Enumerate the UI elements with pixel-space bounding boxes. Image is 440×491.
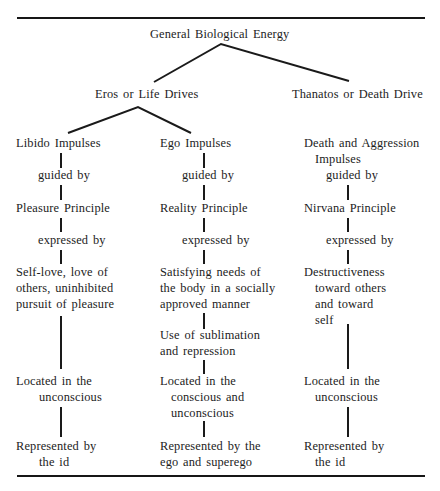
death-impulses-line-2: Impulses	[315, 151, 361, 167]
ego-impulses: Ego Impulses	[160, 135, 231, 151]
edge-root-branches	[154, 44, 349, 82]
ego-expression-line-3: approved manner	[160, 296, 250, 312]
libido-located-line-2: unconscious	[39, 389, 102, 405]
death-connector-2	[347, 218, 349, 232]
ego-mechanism-line-1: Use of sublimation	[160, 327, 260, 343]
libido-represented-line-1: Represented by	[16, 438, 96, 454]
death-expressed-by: expressed by	[326, 232, 394, 248]
ego-connector-4	[203, 250, 205, 264]
ego-guided-by: guided by	[182, 167, 234, 183]
libido-expression-line-3: pursuit of pleasure	[16, 296, 114, 312]
ego-represented-line-1: Represented by the	[160, 438, 261, 454]
libido-located-line-1: Located in the	[16, 373, 92, 389]
ego-mechanism-line-2: and repression	[160, 343, 236, 359]
ego-expression-line-2: the body in a socially	[160, 280, 275, 296]
thanatos-node: Thanatos or Death Drive	[292, 86, 423, 102]
death-located-line-2: unconscious	[315, 389, 378, 405]
edge-eros-impulses	[68, 107, 191, 133]
ego-expressed-by: expressed by	[182, 232, 250, 248]
libido-connector-6	[60, 407, 62, 437]
libido-connector-4	[60, 250, 62, 264]
ego-connector-3	[203, 218, 205, 232]
ego-located-line-2: conscious and	[171, 389, 244, 405]
death-impulses-line-1: Death and Aggression	[304, 135, 419, 151]
libido-expression-line-1: Self-love, love of	[16, 264, 108, 280]
death-represented-line-2: the id	[315, 454, 345, 470]
death-represented-line-1: Represented by	[304, 438, 384, 454]
root-node: General Biological Energy	[150, 26, 289, 42]
ego-represented-line-2: ego and superego	[160, 454, 252, 470]
libido-impulses: Libido Impulses	[16, 135, 101, 151]
ego-connector-1	[203, 153, 205, 168]
ego-expression-line-1: Satisfying needs of	[160, 264, 261, 280]
death-expression-line-3: and toward	[315, 296, 373, 312]
reality-principle: Reality Principle	[160, 200, 248, 216]
death-guided-by: guided by	[326, 167, 378, 183]
libido-guided-by: guided by	[38, 167, 90, 183]
nirvana-principle: Nirvana Principle	[304, 200, 396, 216]
ego-connector-7	[203, 421, 205, 437]
ego-connector-6	[203, 360, 205, 374]
death-connector-1	[347, 185, 349, 200]
ego-located-line-3: unconscious	[171, 405, 234, 421]
death-connector-5	[347, 407, 349, 437]
libido-connector-3	[60, 218, 62, 232]
libido-represented-line-2: the id	[39, 454, 69, 470]
pleasure-principle: Pleasure Principle	[16, 200, 110, 216]
libido-expression-line-2: others, uninhibited	[16, 280, 113, 296]
death-connector-4	[347, 324, 349, 369]
libido-connector-2	[60, 185, 62, 200]
death-expression-line-1: Destructiveness	[304, 264, 385, 280]
libido-expressed-by: expressed by	[38, 232, 106, 248]
libido-connector-1	[60, 153, 62, 168]
ego-connector-2	[203, 185, 205, 200]
death-connector-3	[347, 250, 349, 264]
eros-node: Eros or Life Drives	[95, 86, 198, 102]
death-located-line-1: Located in the	[304, 373, 380, 389]
ego-located-line-1: Located in the	[160, 373, 236, 389]
death-expression-line-2: toward others	[315, 280, 386, 296]
death-expression-line-4: self	[315, 312, 334, 328]
libido-connector-5	[60, 316, 62, 369]
